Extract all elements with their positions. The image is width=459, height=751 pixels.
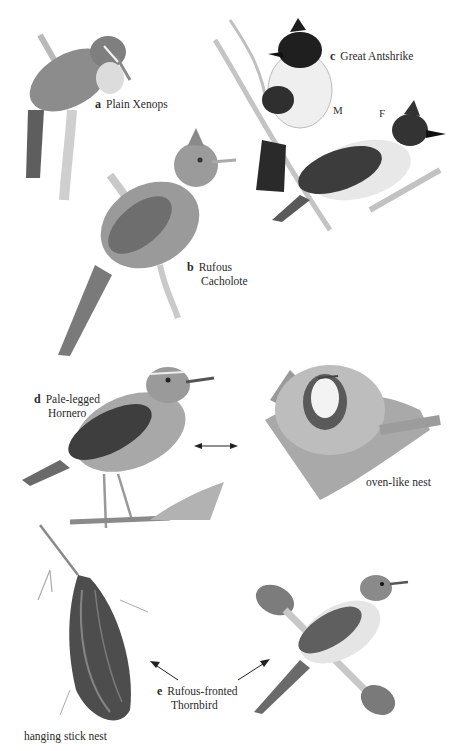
thornbird-arrows xyxy=(150,659,270,680)
sex-label-male: M xyxy=(333,104,343,116)
species-label-c: cGreat Antshrike xyxy=(330,49,413,63)
hanging-stick-nest-illustration xyxy=(38,525,148,720)
rufous-cacholote-illustration xyxy=(58,128,236,356)
species-label-d: dPale-legged Hornero xyxy=(34,392,100,420)
double-arrow xyxy=(194,443,238,449)
species-label-a: aPlain Xenops xyxy=(95,97,168,111)
species-label-e: eRufous-fronted Thornbird xyxy=(157,684,238,712)
sex-label-female: F xyxy=(379,107,385,119)
oven-nest-label: oven-like nest xyxy=(366,475,431,489)
rufous-fronted-thornbird-illustration xyxy=(251,575,408,721)
plate-illustrations xyxy=(0,0,459,751)
stick-nest-label: hanging stick nest xyxy=(24,729,107,743)
species-label-b: bRufous Cacholote xyxy=(187,260,248,288)
